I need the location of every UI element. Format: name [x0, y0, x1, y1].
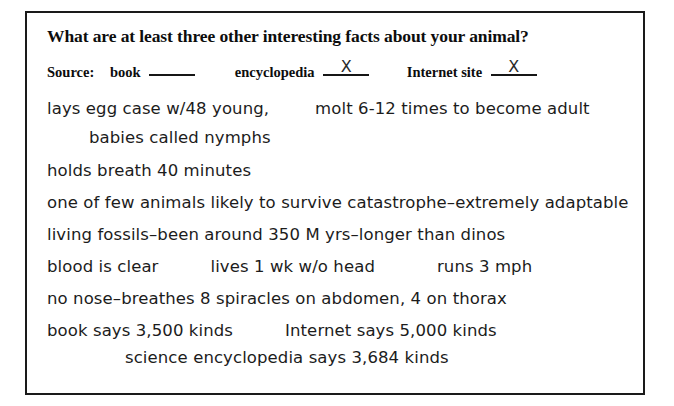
answer-line-2[interactable]: babies called nymphs	[47, 128, 271, 147]
answer-line-8-segment-1: book says 3,500 kinds	[47, 321, 233, 340]
answer-line-1-segment-2: molt 6-12 times to become adult	[315, 99, 590, 118]
answer-line-8[interactable]: book says 3,500 kindsInternet says 5,000…	[47, 321, 497, 340]
answer-line-6-segment-2: lives 1 wk w/o head	[211, 257, 375, 276]
answer-line-6-segment-1: blood is clear	[47, 257, 159, 276]
answer-line-4[interactable]: one of few animals likely to survive cat…	[47, 193, 629, 212]
answer-line-1-segment-1: lays egg case w/48 young,	[47, 99, 269, 118]
answer-line-8-segment-2: Internet says 5,000 kinds	[285, 321, 497, 340]
answer-line-6[interactable]: blood is clearlives 1 wk w/o headruns 3 …	[47, 257, 532, 276]
answer-line-5-segment-1: living fossils–been around 350 M yrs–lon…	[47, 225, 505, 244]
worksheet-box: What are at least three other interestin…	[25, 11, 645, 395]
answer-line-9[interactable]: science encyclopedia says 3,684 kinds	[47, 348, 449, 367]
answer-line-3[interactable]: holds breath 40 minutes	[47, 161, 251, 180]
scanned-page: What are at least three other interestin…	[0, 0, 674, 406]
answer-line-6-segment-3: runs 3 mph	[437, 257, 532, 276]
answer-line-3-segment-1: holds breath 40 minutes	[47, 161, 251, 180]
answer-line-7-segment-1: no nose–breathes 8 spiracles on abdomen,…	[47, 289, 507, 308]
answer-line-2-segment-1: babies called nymphs	[89, 128, 271, 147]
answer-line-4-segment-1: one of few animals likely to survive cat…	[47, 193, 629, 212]
answer-line-9-segment-1: science encyclopedia says 3,684 kinds	[125, 348, 449, 367]
handwritten-answers: lays egg case w/48 young,molt 6-12 times…	[27, 13, 643, 393]
answer-line-1[interactable]: lays egg case w/48 young,molt 6-12 times…	[47, 99, 590, 118]
answer-line-5[interactable]: living fossils–been around 350 M yrs–lon…	[47, 225, 505, 244]
answer-line-7[interactable]: no nose–breathes 8 spiracles on abdomen,…	[47, 289, 507, 308]
